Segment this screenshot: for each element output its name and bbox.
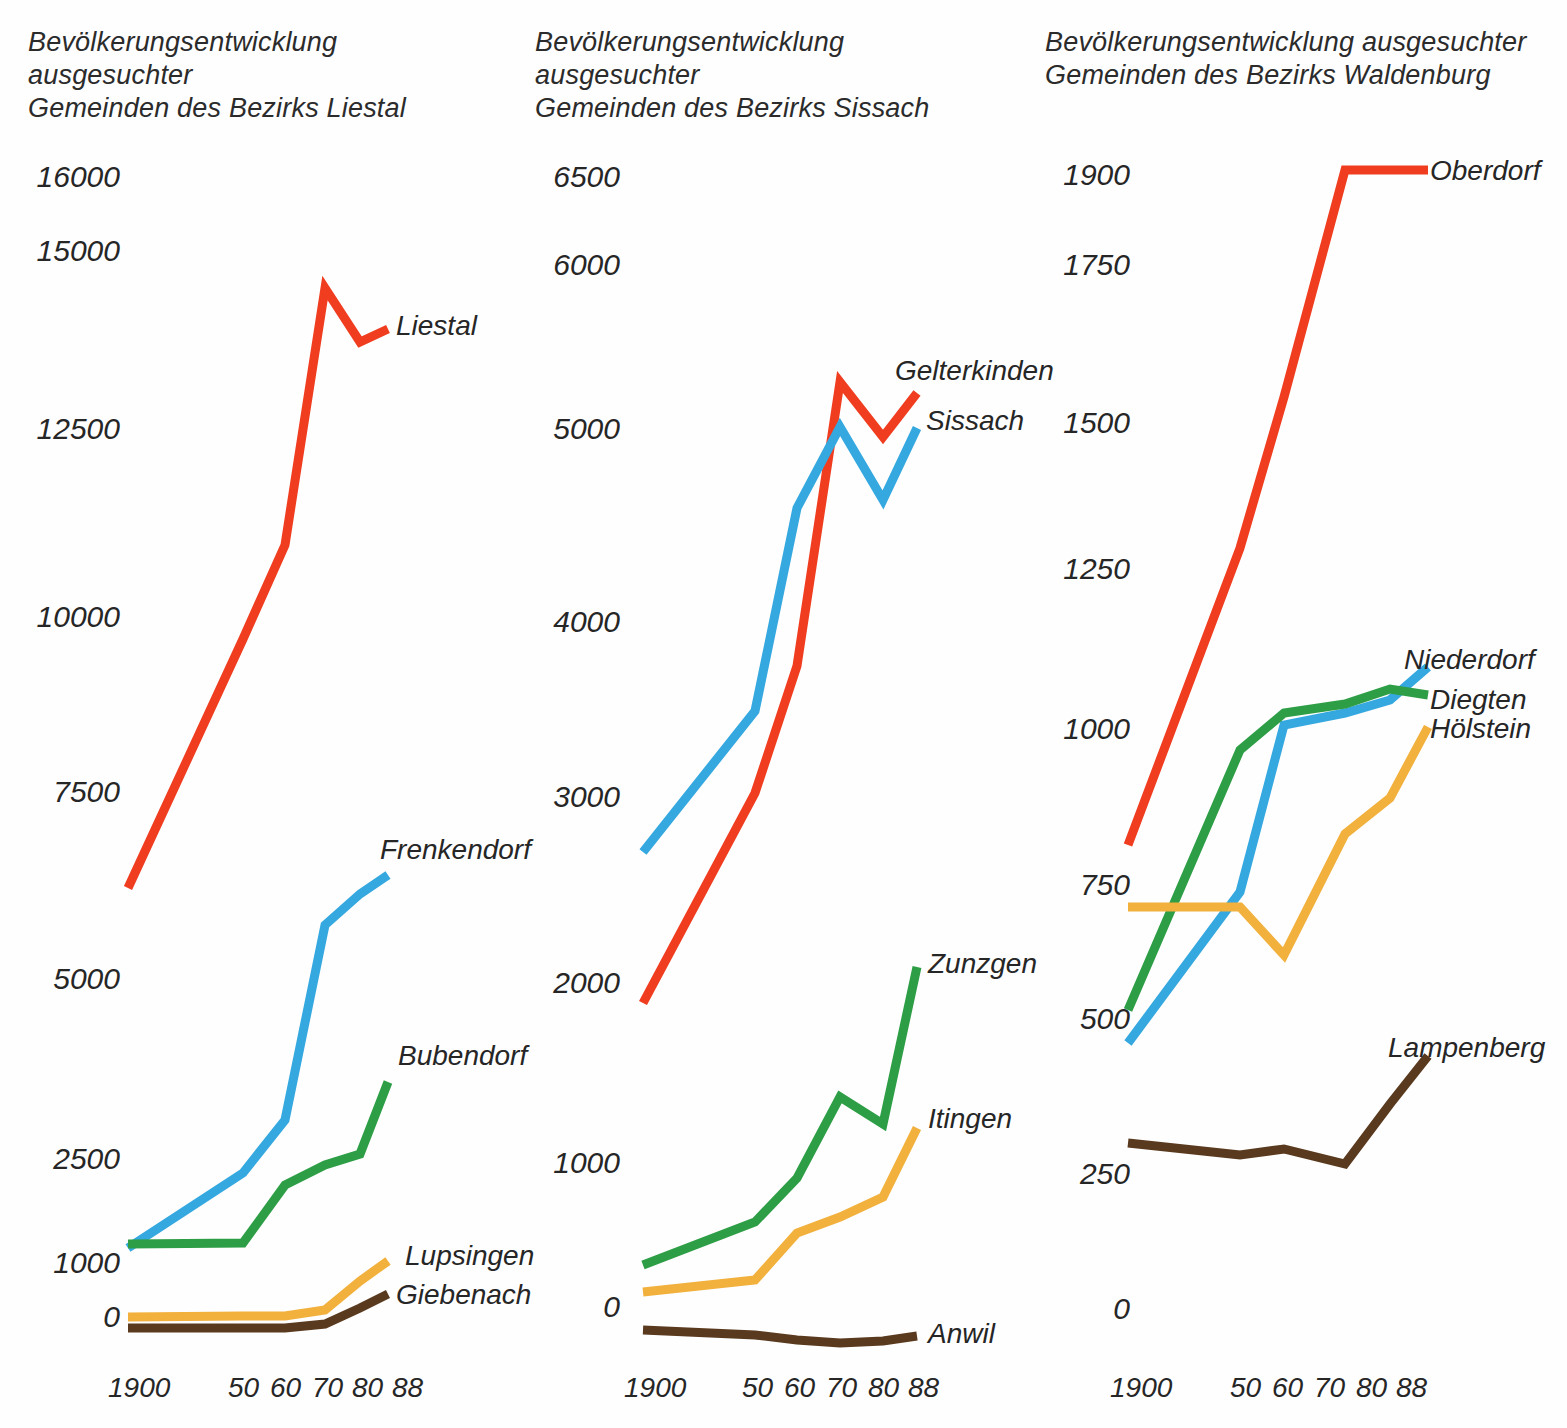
series-label-giebenach: Giebenach <box>396 1279 531 1311</box>
xtick-waldenburg-88: 88 <box>1396 1372 1427 1404</box>
figure-root: Bevölkerungsentwicklung ausgesuchter Gem… <box>0 0 1567 1428</box>
series-path-frenkendorf <box>128 875 388 1248</box>
xtick-sissach-1900: 1900 <box>624 1372 686 1404</box>
series-label-hoelstein: Hölstein <box>1430 713 1531 745</box>
xtick-sissach-50: 50 <box>742 1372 773 1404</box>
series-label-oberdorf: Oberdorf <box>1430 155 1541 187</box>
series-label-lampenberg: Lampenberg <box>1388 1032 1545 1064</box>
xtick-sissach-60: 60 <box>784 1372 815 1404</box>
xtick-waldenburg-70: 70 <box>1314 1372 1345 1404</box>
xtick-liestal-50: 50 <box>228 1372 259 1404</box>
series-path-sissach <box>643 427 917 852</box>
xtick-waldenburg-1900: 1900 <box>1110 1372 1172 1404</box>
xtick-sissach-70: 70 <box>826 1372 857 1404</box>
xtick-waldenburg-80: 80 <box>1356 1372 1387 1404</box>
series-label-zunzgen: Zunzgen <box>928 948 1037 980</box>
xtick-liestal-88: 88 <box>392 1372 423 1404</box>
series-label-niederdorf: Niederdorf <box>1404 644 1535 676</box>
xtick-waldenburg-60: 60 <box>1272 1372 1303 1404</box>
xtick-liestal-70: 70 <box>312 1372 343 1404</box>
series-label-sissach: Sissach <box>926 405 1024 437</box>
xtick-sissach-88: 88 <box>908 1372 939 1404</box>
series-label-gelterkinden: Gelterkinden <box>895 355 1054 387</box>
series-path-gelterkinden <box>643 382 917 1003</box>
series-path-zunzgen <box>643 967 917 1265</box>
xtick-liestal-60: 60 <box>270 1372 301 1404</box>
series-label-frenkendorf: Frenkendorf <box>380 834 531 866</box>
series-label-liestal: Liestal <box>396 310 477 342</box>
chart-lines-layer <box>0 0 1567 1428</box>
series-path-liestal <box>128 288 388 888</box>
xtick-waldenburg-50: 50 <box>1230 1372 1261 1404</box>
series-label-itingen: Itingen <box>928 1103 1012 1135</box>
series-path-giebenach <box>128 1294 388 1328</box>
series-label-anwil: Anwil <box>928 1318 995 1350</box>
series-label-lupsingen: Lupsingen <box>405 1240 534 1272</box>
series-path-anwil <box>643 1330 917 1343</box>
xtick-liestal-1900: 1900 <box>108 1372 170 1404</box>
xtick-sissach-80: 80 <box>868 1372 899 1404</box>
series-path-itingen <box>643 1128 917 1292</box>
xtick-liestal-80: 80 <box>352 1372 383 1404</box>
series-label-bubendorf: Bubendorf <box>398 1040 527 1072</box>
series-path-lampenberg <box>1128 1056 1428 1164</box>
series-label-diegten: Diegten <box>1430 684 1527 716</box>
